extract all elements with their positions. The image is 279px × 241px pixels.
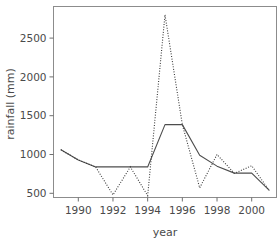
y-tick-label: 2000 (20, 71, 47, 83)
y-tick-label: 2500 (20, 32, 47, 44)
y-tick-label: 500 (26, 187, 46, 199)
y-tick-label: 1500 (20, 109, 47, 121)
rainfall-line-chart: 5001000150020002500 19901992199419961998… (0, 0, 279, 241)
x-axis-title: year (153, 226, 178, 239)
x-tick-label: 1998 (204, 204, 231, 216)
x-tick-label: 1996 (169, 204, 196, 216)
y-tick-label: 1000 (20, 148, 47, 160)
x-tick-label: 2000 (238, 204, 265, 216)
x-tick-label: 1994 (134, 204, 161, 216)
chart-figure: 5001000150020002500 19901992199419961998… (0, 0, 279, 241)
x-tick-label: 1990 (65, 204, 92, 216)
x-tick-label: 1992 (100, 204, 127, 216)
y-axis-title: rainfall (mm) (4, 68, 17, 140)
